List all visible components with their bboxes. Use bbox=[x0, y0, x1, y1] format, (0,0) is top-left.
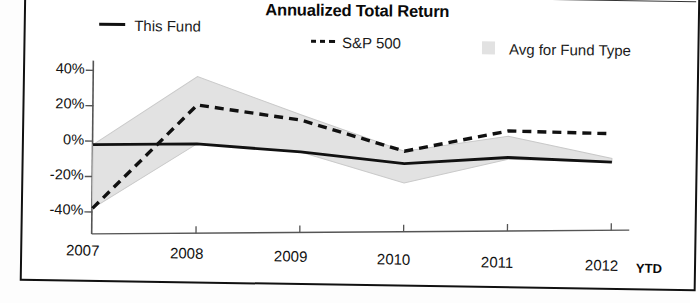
x-axis-tick-label: 2007 bbox=[66, 241, 100, 259]
x-axis-tick-label: 2011 bbox=[481, 253, 514, 271]
x-axis-tick-label: 2008 bbox=[170, 244, 204, 262]
x-axis-line bbox=[92, 225, 630, 239]
x-axis-tick-label: 2009 bbox=[273, 247, 307, 265]
x-axis-tick-label: 2010 bbox=[377, 250, 411, 268]
x-axis-tick-label: 2012 bbox=[585, 256, 619, 274]
chart-container: Annualized Total Return This Fund S&P 50… bbox=[0, 0, 691, 303]
x-axis-ytd-label: YTD bbox=[636, 261, 662, 277]
